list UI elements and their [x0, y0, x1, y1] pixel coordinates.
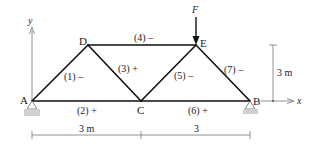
x-axis: x [258, 95, 302, 106]
ground-icon [243, 109, 258, 114]
node-a-label: A [20, 94, 28, 106]
y-axis: y [27, 15, 35, 101]
truss-diagram: y x F A C B D E (1) – (2) + (3) + (4) – [0, 0, 313, 150]
down-arrow-icon [193, 36, 200, 45]
member-2-label: (2) + [77, 105, 97, 117]
member-5-label: (5) – [174, 70, 194, 82]
member-4-label: (4) – [134, 32, 154, 44]
node-b-label: B [253, 95, 260, 107]
load-label: F [191, 4, 199, 15]
horizontal-dimension: 3 m 3 [32, 123, 250, 139]
member-1-label: (1) – [64, 71, 84, 83]
member-6-label: (6) + [188, 105, 208, 117]
node-e-label: E [200, 37, 207, 49]
vertical-dimension-label: 3 m [277, 67, 293, 78]
load-f: F [191, 4, 200, 45]
member-7-label: (7) – [224, 64, 244, 76]
dimension-right-label: 3 [194, 123, 199, 134]
y-axis-label: y [27, 15, 33, 26]
node-d-label: D [79, 35, 87, 47]
member-3-label: (3) + [118, 63, 138, 75]
pin-support-icon [27, 101, 37, 109]
x-axis-label: x [296, 95, 302, 106]
vertical-dimension: 3 m [269, 45, 293, 102]
truss-canvas: y x F A C B D E (1) – (2) + (3) + (4) – [0, 0, 313, 150]
ground-icon [24, 109, 40, 116]
node-c-label: C [137, 104, 144, 116]
dimension-left-label: 3 m [79, 123, 95, 134]
